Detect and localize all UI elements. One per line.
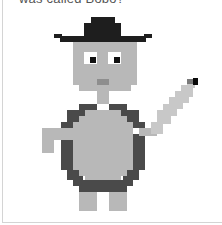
feather-tip — [193, 78, 198, 85]
neck — [97, 91, 109, 104]
belly-bottom — [85, 176, 121, 180]
face-chin — [79, 84, 131, 91]
eye-right-pupil — [114, 57, 120, 63]
shell-side-right — [133, 134, 145, 170]
hat-brim-right-tip — [144, 34, 152, 38]
shell-bottom — [79, 180, 127, 192]
shell-bottom-right-step — [123, 176, 133, 186]
hat-crown-lower — [84, 23, 121, 36]
foot-right — [109, 192, 127, 211]
pixel-art-character — [0, 0, 222, 225]
mouth — [97, 79, 109, 85]
shell-side-left — [61, 140, 73, 170]
shell-bottom-left-step — [73, 176, 83, 186]
arm-left-hand — [42, 140, 54, 153]
eye-left-pupil — [90, 57, 96, 63]
belly-mid — [73, 122, 133, 170]
foot-left — [79, 192, 97, 211]
hat-brim-left-tip — [54, 34, 62, 38]
arm-left — [42, 128, 73, 140]
